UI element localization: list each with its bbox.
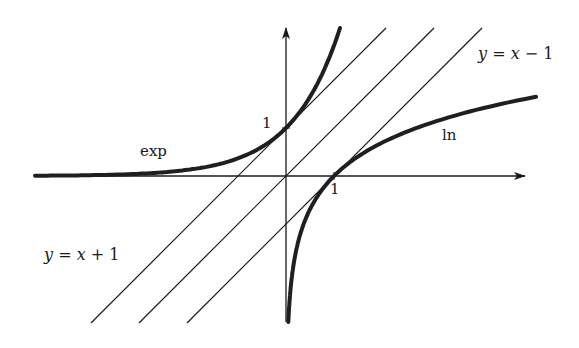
lhs-var: y bbox=[44, 245, 53, 264]
constant: 1 bbox=[109, 245, 119, 264]
operator: − bbox=[520, 44, 544, 63]
exp-curve bbox=[35, 28, 340, 176]
y-tick-label-1: 1 bbox=[262, 116, 272, 131]
equals-sign: = bbox=[53, 245, 77, 264]
ln-curve bbox=[288, 97, 536, 322]
line-label-y-equals-x-plus-1: y = x + 1 bbox=[44, 247, 119, 263]
x-tick-label-1: 1 bbox=[330, 182, 340, 197]
ln-label: ln bbox=[442, 128, 456, 143]
equals-sign: = bbox=[487, 44, 511, 63]
exp-label: exp bbox=[140, 144, 167, 159]
rhs-var: x bbox=[511, 44, 520, 63]
lhs-var: y bbox=[478, 44, 487, 63]
operator: + bbox=[86, 245, 110, 264]
rhs-var: x bbox=[77, 245, 86, 264]
line-label-y-equals-x-minus-1: y = x − 1 bbox=[478, 46, 553, 62]
constant: 1 bbox=[543, 44, 553, 63]
